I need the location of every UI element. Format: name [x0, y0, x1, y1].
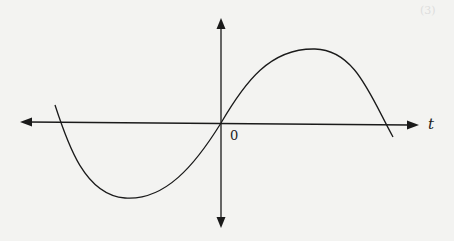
down-arrow-icon [217, 217, 226, 228]
t-axis-label: t [428, 115, 434, 133]
up-arrow-icon [217, 18, 226, 29]
page-mark: (3) [420, 4, 436, 17]
left-arrow-icon [20, 118, 32, 127]
origin-label: 0 [230, 128, 238, 143]
horizontal-axis [20, 118, 419, 130]
diagram-canvas [0, 0, 454, 241]
right-arrow-icon [407, 121, 419, 130]
